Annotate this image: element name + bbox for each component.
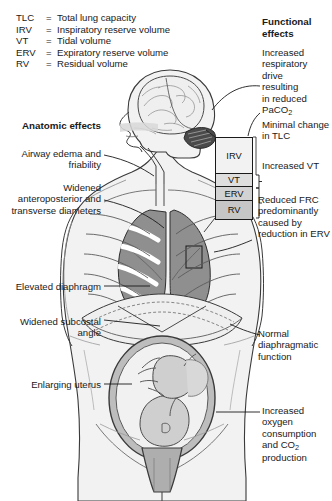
paco2-subscript: 2 — [288, 108, 292, 117]
volume-box-rv: RV — [215, 201, 253, 220]
legend-abbr: VT — [16, 35, 46, 47]
label-enlarging-uterus: Enlarging uterus — [0, 379, 101, 390]
resp-drive-line5: in reduced — [262, 93, 332, 104]
oxygen-line3: consumption — [262, 428, 332, 439]
oxygen-line4: and CO2 — [262, 439, 332, 451]
lung-volume-chart: IRV VT ERV RV — [215, 137, 253, 220]
legend-row: RV=Residual volume — [16, 58, 170, 70]
oxygen-line5: production — [262, 452, 332, 463]
anatomic-effects-heading: Anatomic effects — [0, 120, 101, 132]
legend-equals: = — [46, 58, 57, 70]
label-reduced-frc: Reduced FRC predominantly caused by redu… — [258, 194, 330, 240]
co2-subscript: 2 — [295, 443, 299, 452]
legend-row: ERV=Expiratory reserve volume — [16, 47, 170, 59]
label-increased-oxygen-consumption: Increased oxygen consumption and CO2 pro… — [262, 405, 332, 463]
resp-drive-line2: respiratory — [262, 58, 332, 69]
label-minimal-tlc-change: Minimal change in TLC — [262, 119, 332, 142]
volume-box-erv: ERV — [215, 187, 253, 201]
legend-row: TLC=Total lung capacity — [16, 12, 170, 24]
oxygen-line1: Increased — [262, 405, 332, 416]
label-elevated-diaphragm: Elevated diaphragm — [0, 281, 101, 292]
label-airway-edema: Airway edema and friability — [0, 148, 101, 171]
label-widened-diameters: Widened anteroposterior and transverse d… — [0, 182, 101, 216]
legend-abbr: IRV — [16, 24, 46, 36]
resp-drive-line4: resulting — [262, 81, 332, 92]
legend-equals: = — [46, 12, 57, 24]
legend-definition: Tidal volume — [57, 35, 111, 47]
label-widened-subcostal-angle: Widened subcostal angle — [0, 316, 101, 339]
co2-text: and CO — [262, 439, 295, 450]
volume-box-vt: VT — [215, 174, 253, 187]
legend-abbr: ERV — [16, 47, 46, 59]
volume-box-irv: IRV — [215, 137, 253, 174]
legend-abbr: TLC — [16, 12, 46, 24]
legend-abbr: RV — [16, 58, 46, 70]
legend-equals: = — [46, 47, 57, 59]
label-increased-vt: Increased VT — [262, 160, 332, 171]
legend-row: IRV=Inspiratory reserve volume — [16, 24, 170, 36]
functional-effects-heading: Functional effects — [262, 16, 328, 39]
resp-drive-line3: drive — [262, 70, 332, 81]
paco2-text: PaCO — [262, 104, 288, 115]
legend-equals: = — [46, 24, 57, 36]
legend-definition: Total lung capacity — [57, 12, 136, 24]
resp-drive-line1: Increased — [262, 47, 332, 58]
abbreviation-legend: TLC=Total lung capacity IRV=Inspiratory … — [16, 12, 170, 70]
legend-definition: Inspiratory reserve volume — [57, 24, 170, 36]
resp-drive-line6: PaCO2 — [262, 104, 332, 116]
label-normal-diaphragmatic-function: Normal diaphragmatic function — [258, 328, 330, 362]
oxygen-line2: oxygen — [262, 416, 332, 427]
legend-equals: = — [46, 35, 57, 47]
label-increased-respiratory-drive: Increased respiratory drive resulting in… — [262, 47, 332, 116]
legend-definition: Residual volume — [57, 58, 128, 70]
legend-row: VT=Tidal volume — [16, 35, 170, 47]
legend-definition: Expiratory reserve volume — [57, 47, 168, 59]
